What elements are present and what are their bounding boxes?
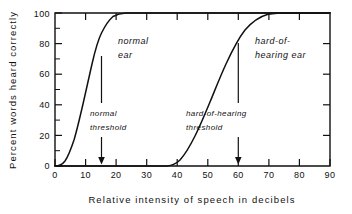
chart-canvas: 0 10 20 30 40 50 60 70 80 90 0 20 40 60 … bbox=[0, 0, 352, 214]
curve-label-line1: hard-of- bbox=[255, 36, 291, 46]
x-tick-label: 40 bbox=[172, 170, 183, 180]
curve-label-hard-of-hearing-ear: hard-of- hearing ear bbox=[255, 36, 307, 60]
x-tick-label: 90 bbox=[325, 170, 336, 180]
y-tick-labels: 0 20 40 60 80 100 bbox=[34, 9, 50, 172]
y-tick-label: 40 bbox=[39, 100, 50, 110]
y-tick-label: 100 bbox=[34, 9, 50, 19]
x-axis-ticks bbox=[55, 159, 330, 166]
y-axis-right-ticks bbox=[323, 44, 330, 136]
x-tick-labels: 0 10 20 30 40 50 60 70 80 90 bbox=[52, 170, 335, 180]
x-tick-label: 30 bbox=[141, 170, 152, 180]
x-tick-label: 0 bbox=[52, 170, 57, 180]
annotation-hoh-threshold bbox=[235, 43, 242, 165]
x-tick-label: 60 bbox=[233, 170, 244, 180]
y-tick-label: 60 bbox=[39, 69, 50, 79]
threshold-label-line2: threshold bbox=[90, 123, 127, 132]
y-axis-title: Percent words heard correctly bbox=[7, 11, 18, 169]
threshold-label-line1: normal bbox=[90, 109, 117, 118]
y-tick-label: 0 bbox=[45, 161, 50, 171]
curve-label-line2: hearing ear bbox=[255, 50, 307, 60]
label-normal-threshold: normal threshold bbox=[90, 109, 127, 132]
y-tick-label: 20 bbox=[39, 131, 50, 141]
x-tick-label: 80 bbox=[294, 170, 305, 180]
x-tick-label: 20 bbox=[111, 170, 122, 180]
speech-intelligibility-figure: 0 10 20 30 40 50 60 70 80 90 0 20 40 60 … bbox=[0, 0, 352, 214]
curve-label-normal-ear: normal ear bbox=[118, 36, 149, 60]
y-tick-label: 80 bbox=[39, 39, 50, 49]
x-tick-label: 70 bbox=[263, 170, 274, 180]
threshold-label-line1: hard-of-hearing bbox=[186, 109, 247, 118]
curve-label-line1: normal bbox=[118, 36, 149, 46]
threshold-label-line2: threshold bbox=[186, 123, 223, 132]
curve-label-line2: ear bbox=[118, 50, 133, 60]
x-tick-label: 10 bbox=[80, 170, 91, 180]
label-hoh-threshold: hard-of-hearing threshold bbox=[186, 109, 247, 132]
x-axis-title: Relative intensity of speech in decibels bbox=[88, 194, 295, 205]
y-axis-ticks bbox=[55, 13, 62, 166]
x-tick-label: 50 bbox=[202, 170, 213, 180]
